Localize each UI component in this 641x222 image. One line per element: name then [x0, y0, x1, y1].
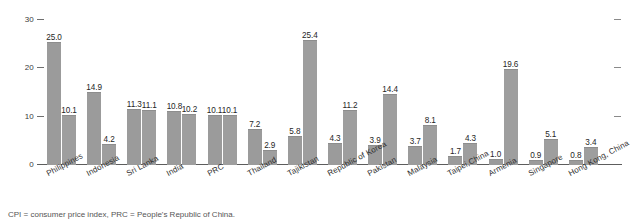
- bar: [504, 69, 518, 165]
- bar-group: 0.83.4: [569, 19, 609, 165]
- bar-value-label: 14.4: [378, 85, 402, 94]
- bar-value-label: 14.9: [82, 83, 106, 92]
- y-tick-label-20: 20: [18, 63, 34, 72]
- bar: [303, 40, 317, 165]
- y-tick-label-30: 30: [18, 15, 34, 24]
- bar-value-label: 11.1: [137, 101, 161, 110]
- y-tick-label-10: 10: [18, 112, 34, 121]
- bar-group: 5.825.4: [288, 19, 328, 165]
- y-tick-mark-right-30: [614, 19, 621, 20]
- bar-group: 10.810.2: [167, 19, 207, 165]
- y-tick-mark-right-20: [614, 67, 621, 68]
- bar: [87, 92, 101, 166]
- bar: [47, 42, 61, 165]
- y-tick-label-0: 0: [18, 160, 34, 169]
- bar-value-label: 10.1: [57, 106, 81, 115]
- bar-group: 0.95.1: [529, 19, 569, 165]
- bar: [182, 114, 196, 165]
- bar-value-label: 25.4: [298, 31, 322, 40]
- bar: [127, 109, 141, 165]
- bar-group: 14.94.2: [87, 19, 127, 165]
- y-tick-mark-right-10: [614, 116, 621, 117]
- bar-group: 11.311.1: [127, 19, 167, 165]
- bar-group: 3.78.1: [408, 19, 448, 165]
- bar-value-label: 7.2: [243, 120, 267, 129]
- bar-value-label: 25.0: [42, 33, 66, 42]
- chart-footnote: CPI = consumer price index, PRC = People…: [8, 210, 235, 219]
- bar-value-label: 11.2: [338, 101, 362, 110]
- bar-value-label: 8.1: [418, 116, 442, 125]
- bar-value-label: 10.1: [218, 106, 242, 115]
- bar: [167, 111, 181, 165]
- bar-value-label: 5.1: [539, 130, 563, 139]
- bar: [288, 136, 302, 165]
- bar: [208, 115, 222, 165]
- bar-group: 25.010.1: [47, 19, 87, 165]
- bar-group: 10.110.1: [208, 19, 248, 165]
- bar: [383, 94, 397, 165]
- bar-group: 7.22.9: [248, 19, 288, 165]
- bar-value-label: 10.2: [177, 105, 201, 114]
- bar-group: 1.74.3: [448, 19, 488, 165]
- bar-chart: 30 20 10 0 25.010.114.94.211.311.110.810…: [0, 0, 641, 222]
- bar-value-label: 2.9: [258, 141, 282, 150]
- bar-value-label: 3.4: [579, 138, 603, 147]
- bar-value-label: 4.2: [97, 135, 121, 144]
- plot-area: 25.010.114.94.211.311.110.810.210.110.17…: [43, 19, 605, 165]
- bar-value-label: 4.3: [458, 134, 482, 143]
- bar-group: 4.311.2: [328, 19, 368, 165]
- bar: [223, 115, 237, 165]
- bar-group: 1.019.6: [489, 19, 529, 165]
- bar-value-label: 19.6: [499, 60, 523, 69]
